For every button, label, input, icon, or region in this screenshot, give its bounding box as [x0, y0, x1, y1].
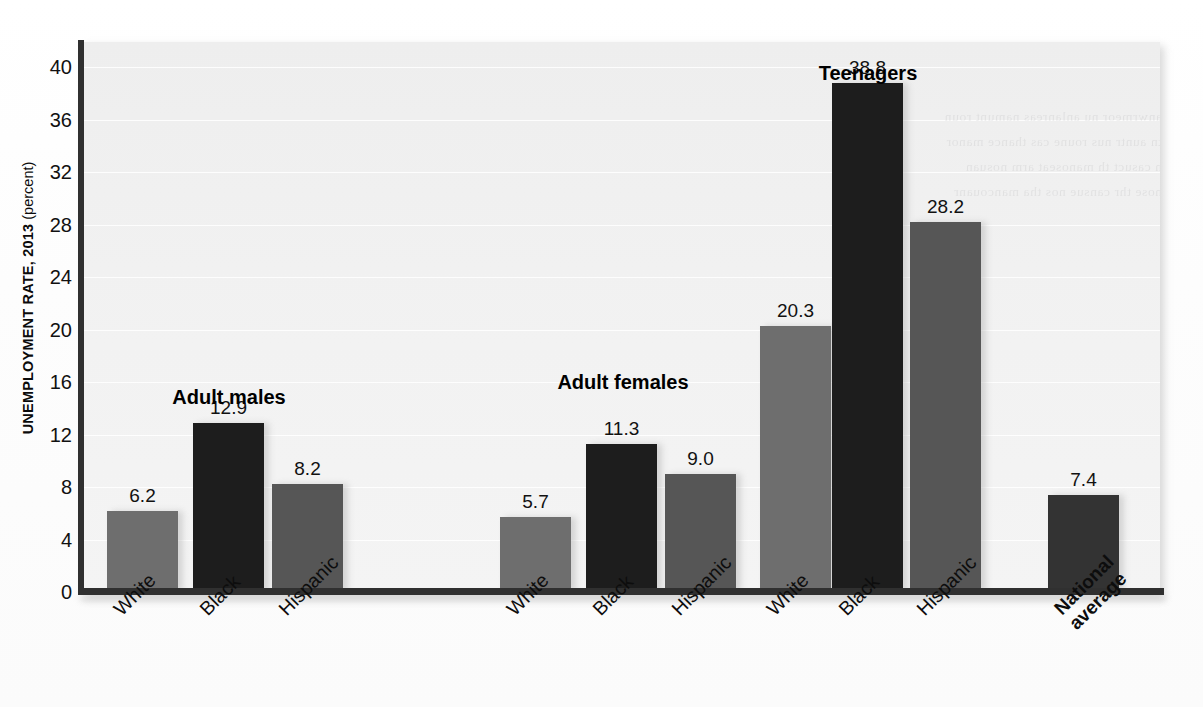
group-label: Adult females: [557, 371, 688, 394]
gridline: [82, 225, 1160, 226]
gridline: [82, 67, 1160, 68]
bar-value-label: 20.3: [777, 300, 814, 322]
y-axis-title-container: UNEMPLOYMENT RATE, 2013 (percent): [0, 0, 60, 640]
bar[interactable]: [760, 326, 831, 592]
bar[interactable]: [193, 423, 264, 592]
y-axis-line: [78, 40, 84, 594]
bar[interactable]: [910, 222, 981, 592]
bar[interactable]: [832, 83, 903, 592]
plot-area: anwrmeor nu anlanreas namunt roun tn aun…: [82, 42, 1160, 592]
unemployment-rate-bar-chart: a handrum adunt that meanalyrin and to g…: [0, 0, 1203, 707]
y-axis-title-strong: UNEMPLOYMENT RATE, 2013: [20, 224, 36, 435]
group-label: Adult males: [172, 386, 285, 409]
bar-value-label: 9.0: [687, 448, 713, 470]
y-axis-title-light: (percent): [20, 162, 36, 224]
bar-value-label: 5.7: [522, 491, 548, 513]
bar-value-label: 8.2: [294, 458, 320, 480]
group-label: Teenagers: [819, 62, 918, 85]
y-axis-title: UNEMPLOYMENT RATE, 2013 (percent): [20, 18, 36, 578]
gridline: [82, 277, 1160, 278]
bar-value-label: 11.3: [604, 418, 640, 440]
gridline: [82, 330, 1160, 331]
bar-value-label: 6.2: [129, 485, 155, 507]
bar-value-label: 7.4: [1070, 469, 1096, 491]
bar-value-label: 28.2: [927, 196, 964, 218]
